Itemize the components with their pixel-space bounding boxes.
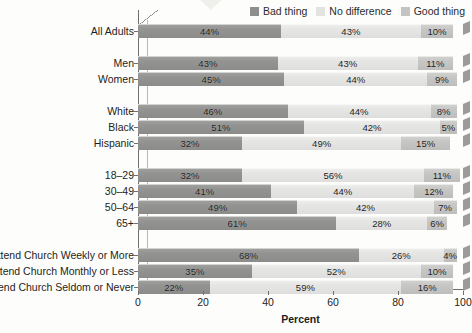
bar-value-label: 43% (338, 58, 357, 69)
category-tick (134, 207, 138, 208)
x-tick-label: 0 (135, 296, 141, 308)
legend-label-good-thing: Good thing (414, 5, 465, 17)
category-tick (134, 223, 138, 224)
bar-value-label: 4% (443, 250, 457, 261)
bar-segment-good: 5% (440, 120, 456, 134)
stacked-bar: 44%43%10% (138, 24, 463, 38)
bar-value-label: 32% (180, 138, 199, 149)
bar-segment-good: 15% (401, 136, 450, 150)
bar-value-label: 8% (437, 106, 451, 117)
bar-segment-nodiff: 52% (252, 264, 421, 278)
x-tick-label: 100 (454, 296, 472, 308)
bar-segment-bad: 61% (138, 216, 336, 230)
bar-value-label: 49% (208, 202, 227, 213)
stacked-bar: 45%44%9% (138, 72, 463, 86)
legend-item-no-difference: No difference (316, 5, 391, 17)
bar-value-label: 56% (323, 170, 342, 181)
bar-value-label: 10% (427, 266, 446, 277)
bar-value-label: 10% (427, 26, 446, 37)
bar-segment-good: 11% (418, 56, 454, 70)
stacked-bar: 61%28%6% (138, 216, 463, 230)
bar-segment-nodiff: 42% (304, 120, 441, 134)
bar-value-label: 43% (341, 26, 360, 37)
legend-label-no-difference: No difference (329, 5, 391, 17)
bar-3d-cap (463, 117, 470, 131)
bar-row: 68%26%4% (138, 248, 463, 262)
bar-segment-nodiff: 44% (288, 104, 431, 118)
bar-segment-bad: 68% (138, 248, 359, 262)
bar-segment-nodiff: 49% (242, 136, 401, 150)
bar-segment-good: 4% (444, 248, 457, 262)
stacked-bar: 49%42%7% (138, 200, 463, 214)
category-label-12: Attend Church Monthly or Less (0, 264, 134, 278)
stacked-bar: 41%44%12% (138, 184, 463, 198)
stacked-bar: 68%26%4% (138, 248, 463, 262)
plot-area: 44%43%10%43%43%11%45%44%9%46%44%8%51%42%… (138, 24, 463, 290)
bar-row: 51%42%5% (138, 120, 463, 134)
bar-value-label: 59% (296, 282, 315, 293)
legend-label-bad-thing: Bad thing (263, 5, 307, 17)
bar-value-label: 6% (430, 218, 444, 229)
category-tick (134, 31, 138, 32)
bar-3d-cap (463, 101, 470, 115)
bar-row: 46%44%8% (138, 104, 463, 118)
category-label-2: Men (114, 56, 134, 70)
scan-artifact (196, 0, 226, 10)
bar-value-label: 44% (349, 106, 368, 117)
bar-segment-bad: 44% (138, 24, 281, 38)
bar-segment-good: 6% (427, 216, 447, 230)
category-tick (134, 287, 138, 288)
bar-3d-cap (463, 165, 470, 179)
x-tick-label: 40 (262, 296, 274, 308)
bar-segment-bad: 49% (138, 200, 297, 214)
bar-value-label: 68% (239, 250, 258, 261)
legend-swatch-no-difference (316, 7, 325, 16)
category-tick (134, 143, 138, 144)
legend-swatch-good-thing (401, 7, 410, 16)
x-tick (333, 291, 334, 295)
x-axis-title: Percent (281, 313, 320, 325)
x-tick (268, 291, 269, 295)
chart-legend: Bad thing No difference Good thing (250, 5, 465, 17)
category-tick (134, 271, 138, 272)
bar-value-label: 49% (312, 138, 331, 149)
bar-segment-nodiff: 43% (278, 56, 418, 70)
bar-value-label: 61% (228, 218, 247, 229)
category-label-3: Women (98, 72, 134, 86)
bar-3d-cap (463, 261, 470, 275)
bar-row: 35%52%10% (138, 264, 463, 278)
x-tick (463, 291, 464, 295)
category-tick (134, 63, 138, 64)
category-label-11: Attend Church Weekly or More (0, 248, 134, 262)
bar-value-label: 43% (198, 58, 217, 69)
bar-value-label: 41% (195, 186, 214, 197)
category-label-6: Hispanic (94, 136, 134, 150)
bar-row: 44%43%10% (138, 24, 463, 38)
category-label-8: 30–49 (105, 184, 134, 198)
category-tick (134, 127, 138, 128)
x-axis-ticks: 020406080100 (138, 291, 463, 311)
x-tick (138, 291, 139, 295)
category-tick (134, 79, 138, 80)
bar-row: 32%56%11% (138, 168, 463, 182)
bar-value-label: 45% (202, 74, 221, 85)
category-tick (134, 111, 138, 112)
bar-segment-good: 12% (414, 184, 453, 198)
bar-segment-nodiff: 44% (284, 72, 427, 86)
bar-3d-cap (463, 53, 470, 67)
bar-segment-bad: 35% (138, 264, 252, 278)
bar-row: 45%44%9% (138, 72, 463, 86)
bar-segment-good: 10% (421, 24, 454, 38)
bar-value-label: 35% (185, 266, 204, 277)
bar-segment-nodiff: 42% (297, 200, 434, 214)
stacked-bar: 43%43%11% (138, 56, 463, 70)
bar-value-label: 52% (327, 266, 346, 277)
category-label-9: 50–64 (105, 200, 134, 214)
x-tick-label: 20 (197, 296, 209, 308)
category-label-column: All AdultsMenWomenWhiteBlackHispanic18–2… (0, 24, 134, 290)
x-axis-area: 020406080100 Percent (138, 291, 463, 333)
bar-segment-bad: 32% (138, 168, 242, 182)
bar-3d-cap (463, 277, 470, 291)
bar-value-label: 32% (180, 170, 199, 181)
